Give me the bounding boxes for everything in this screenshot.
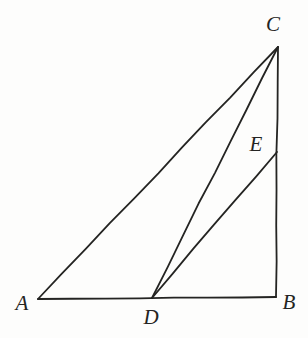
vertex-label-e: E	[250, 134, 263, 155]
vertex-label-a: A	[16, 293, 29, 314]
geometry-figure: A B C D E	[0, 0, 308, 338]
figure-canvas	[0, 0, 308, 338]
vertex-label-d: D	[143, 307, 158, 328]
segment-group	[38, 47, 278, 299]
segment-ac	[38, 47, 278, 299]
segment-cb	[276, 47, 278, 297]
vertex-label-c: C	[266, 14, 280, 35]
segment-ab	[38, 297, 276, 299]
vertex-label-b: B	[283, 292, 296, 313]
